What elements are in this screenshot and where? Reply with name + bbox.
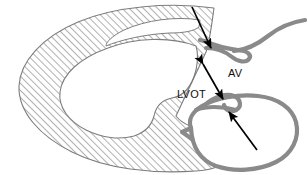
anatomy-figure: AV LVOT (0, 0, 308, 175)
av-label: AV (228, 67, 243, 79)
anterior-leaflet-hinge (200, 40, 204, 41)
anatomy-diagram-canvas: AV LVOT (0, 0, 308, 175)
lvot-label: LVOT (177, 88, 206, 100)
